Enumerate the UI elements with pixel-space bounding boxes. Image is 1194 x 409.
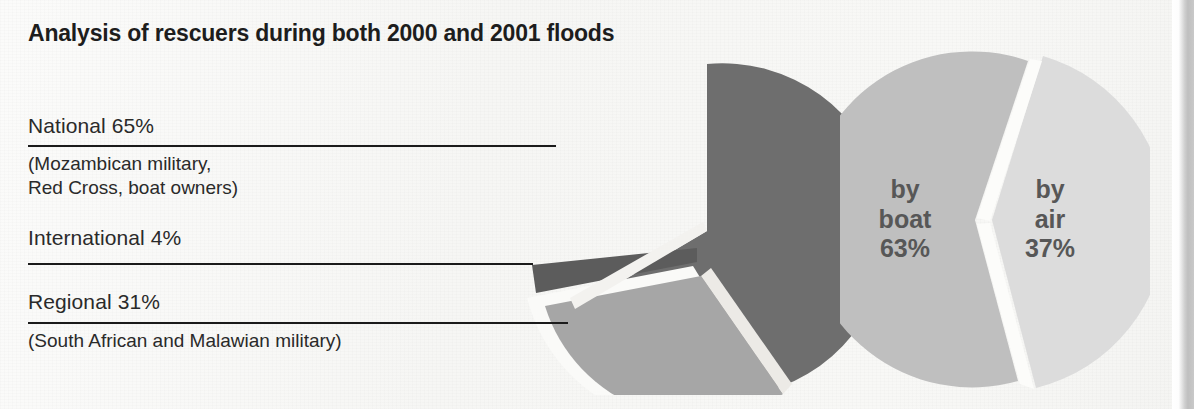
legend-item-regional: Regional 31% [28,290,160,314]
slice-label-by-boat-line2: boat [850,205,960,235]
pie-slice-international [532,248,697,293]
legend-item-national: National 65% [28,114,154,138]
page-edge-band [1172,0,1194,409]
pie-chart-rescuers-by-origin [515,50,875,395]
leader-line-regional [28,322,568,324]
legend-note-national: (Mozambican military, Red Cross, boat ow… [28,152,238,200]
slice-label-by-air: by air 37% [1000,175,1100,264]
legend-note-national-line2: Red Cross, boat owners) [28,176,238,200]
slice-label-by-boat-line1: by [850,175,960,205]
slice-label-by-air-line1: by [1000,175,1100,205]
pie-slice-regional [545,276,783,395]
leader-line-national [28,145,556,147]
slice-label-by-boat: by boat 63% [850,175,960,264]
legend-label-international: International 4% [28,226,181,250]
legend-label-regional: Regional 31% [28,290,160,314]
legend-note-regional-line1: (South African and Malawian military) [28,329,342,353]
legend-note-national-line1: (Mozambican military, [28,152,238,176]
pie-slice-national-inner-edge [570,222,707,309]
slice-label-by-air-line3: 37% [1000,234,1100,264]
legend-label-national: National 65% [28,114,154,138]
slice-label-by-boat-line3: 63% [850,234,960,264]
pie-slice-national [575,63,875,395]
pie-gap-regional [527,266,777,395]
leader-line-international [28,263,533,265]
chart-page: Analysis of rescuers during both 2000 an… [0,0,1194,409]
slice-label-by-air-line2: air [1000,205,1100,235]
legend-note-regional: (South African and Malawian military) [28,329,342,353]
pie-slice-regional-edge [701,268,792,394]
legend-item-international: International 4% [28,226,181,250]
page-title: Analysis of rescuers during both 2000 an… [28,20,614,47]
